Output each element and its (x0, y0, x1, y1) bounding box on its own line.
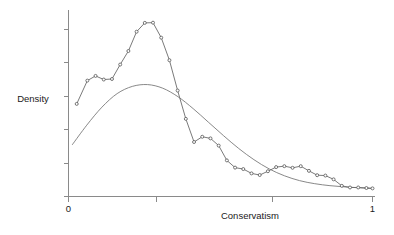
data-point-marker (94, 74, 97, 77)
data-point-marker (299, 165, 302, 168)
axes-group (64, 10, 375, 202)
data-point-marker (193, 140, 196, 143)
empirical-density-markers (75, 21, 374, 190)
data-point-marker (102, 78, 105, 81)
data-point-marker (258, 174, 261, 177)
x-axis-ticks (69, 197, 373, 202)
data-point-marker (184, 117, 187, 120)
data-point-marker (275, 166, 278, 169)
data-point-marker (307, 169, 310, 172)
series-group (72, 21, 374, 190)
data-point-marker (217, 144, 220, 147)
x-axis-label: Conservatism (221, 210, 279, 221)
data-point-marker (357, 186, 360, 189)
empirical-density-line (77, 23, 373, 189)
x-axis-tick-label: 1 (370, 203, 375, 214)
data-point-marker (371, 187, 374, 190)
y-axis-label: Density (17, 93, 49, 104)
data-point-marker (176, 89, 179, 92)
data-point-marker (349, 186, 352, 189)
data-point-marker (75, 102, 78, 105)
data-point-marker (266, 170, 269, 173)
x-axis-tick-label: 0 (66, 203, 71, 214)
data-point-marker (365, 187, 368, 190)
data-point-marker (152, 21, 155, 24)
data-point-marker (160, 36, 163, 39)
chart-canvas: Conservatism Density 01 (0, 0, 394, 235)
data-point-marker (135, 30, 138, 33)
data-point-marker (291, 166, 294, 169)
data-point-marker (250, 172, 253, 175)
data-point-marker (340, 184, 343, 187)
data-point-marker (143, 21, 146, 24)
data-point-marker (86, 79, 89, 82)
data-point-marker (332, 178, 335, 181)
data-point-marker (209, 137, 212, 140)
data-point-marker (168, 59, 171, 62)
y-axis-ticks (64, 30, 69, 197)
data-point-marker (324, 174, 327, 177)
data-point-marker (283, 165, 286, 168)
data-point-marker (242, 168, 245, 171)
data-point-marker (316, 174, 319, 177)
data-point-marker (119, 63, 122, 66)
data-point-marker (201, 135, 204, 138)
data-point-marker (234, 166, 237, 169)
labels-group: Conservatism Density 01 (17, 93, 375, 221)
data-point-marker (110, 77, 113, 80)
fitted-normal-curve (72, 85, 372, 189)
data-point-marker (225, 159, 228, 162)
data-point-marker (127, 50, 130, 53)
density-chart-figure: Conservatism Density 01 (0, 0, 394, 235)
